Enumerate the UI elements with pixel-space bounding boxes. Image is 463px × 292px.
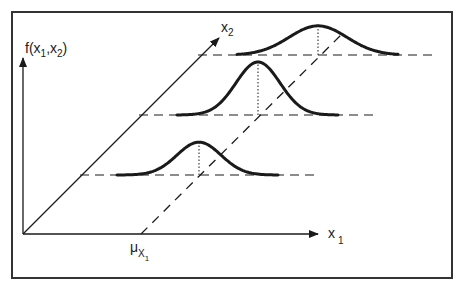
x2-axis-label: x2 bbox=[221, 19, 234, 38]
diagram-canvas: f(x1,x2) x2 x1 μX1 bbox=[0, 0, 463, 292]
x1-axis-label: x1 bbox=[328, 225, 344, 246]
density-curve-low bbox=[117, 142, 278, 175]
diagram-svg: f(x1,x2) x2 x1 μX1 bbox=[0, 0, 463, 292]
vertical-axis-label: f(x1,x2) bbox=[25, 40, 67, 59]
mean-marker-label: μX1 bbox=[130, 239, 150, 263]
density-curves bbox=[117, 26, 398, 175]
x2-axis bbox=[23, 38, 219, 234]
mean-line bbox=[141, 31, 345, 234]
